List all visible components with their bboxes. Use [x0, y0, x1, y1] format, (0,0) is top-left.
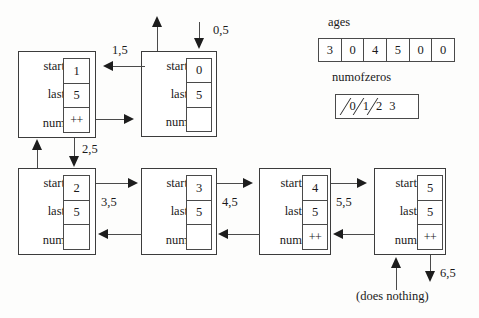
link-0-to-1-head: [103, 61, 113, 71]
frame-start-0: start last num 0 5: [141, 51, 217, 137]
value-num: [187, 225, 211, 249]
value-num: [64, 225, 89, 249]
ages-array: 3 0 4 5 0 0: [318, 38, 455, 62]
ages-cell-1: 0: [342, 39, 365, 61]
field-label-num: num: [19, 117, 68, 130]
value-last: 5: [64, 84, 89, 109]
link-4-to-3-head: [218, 229, 228, 239]
link-0-to-1-shaft: [113, 66, 145, 67]
field-label-last: last: [142, 205, 191, 218]
value-start: 0: [187, 59, 211, 83]
field-label-num: num: [19, 234, 68, 247]
frame-value-column: 5 5 ++: [417, 175, 443, 250]
value-last: 5: [187, 83, 211, 107]
field-label-num: num: [142, 234, 191, 247]
frame-value-column: 4 5 ++: [302, 175, 328, 250]
link-1-to-0-shaft: [96, 119, 126, 120]
value-last: 5: [303, 201, 327, 226]
link-2-to-3-head: [128, 178, 138, 188]
call-6-head: [425, 271, 435, 282]
value-last: 5: [187, 201, 211, 226]
ages-cell-3: 5: [387, 39, 410, 61]
field-label-last: last: [19, 88, 68, 101]
field-label-num: num: [260, 234, 305, 247]
call-label-5-5: 5,5: [336, 196, 352, 209]
ages-cell-0: 3: [319, 39, 342, 61]
does-nothing-return-shaft: [396, 268, 397, 290]
value-num: ++: [303, 225, 327, 249]
numofzeros-value-2: 2: [373, 100, 386, 113]
call-label-1-5: 1,5: [112, 44, 128, 57]
diagram-canvas: start last num 1 5 ++ start last num: [0, 0, 479, 318]
call-label-entry: 0,5: [213, 24, 229, 37]
ages-cell-2: 4: [364, 39, 387, 61]
call-label-6-5: 6,5: [440, 267, 456, 280]
field-label-last: last: [260, 205, 305, 218]
frame-start-4: start last num 4 5 ++: [259, 168, 331, 255]
numofzeros-label: numofzeros: [332, 71, 391, 84]
field-label-start: start: [375, 177, 420, 190]
frame-start-5: start last num 5 5 ++: [374, 168, 446, 255]
field-label-num: num: [375, 234, 420, 247]
field-label-start: start: [142, 177, 191, 190]
field-label-last: last: [19, 205, 68, 218]
link-3-to-4-shaft: [217, 183, 245, 184]
link-2-to-1-shaft: [37, 150, 38, 168]
does-nothing-return-head: [391, 257, 401, 268]
link-3-to-2-head: [98, 229, 108, 239]
frame-value-column: 0 5: [186, 58, 212, 132]
frame-start-3: start last num 3 5: [141, 168, 217, 255]
value-start: 1: [64, 59, 89, 84]
value-num: [187, 108, 211, 131]
frame-start-2: start last num 2 5: [18, 168, 96, 255]
frame-start-1: start last num 1 5 ++: [18, 51, 96, 138]
ages-cell-4: 0: [410, 39, 433, 61]
does-nothing-caption: (does nothing): [356, 290, 429, 303]
value-num: ++: [418, 225, 442, 249]
value-start: 2: [64, 176, 89, 201]
link-2-to-1-head: [32, 139, 42, 150]
link-3-to-2-shaft: [108, 234, 142, 235]
call-label-2-5: 2,5: [82, 143, 98, 156]
frame-value-column: 1 5 ++: [63, 58, 90, 133]
value-last: 5: [418, 201, 442, 226]
ages-array-label: ages: [328, 16, 350, 29]
field-label-last: last: [142, 88, 191, 101]
field-label-start: start: [19, 177, 68, 190]
value-num: ++: [64, 108, 89, 132]
link-5-to-4-head: [333, 229, 343, 239]
exit-arrow-head: [152, 16, 162, 27]
field-label-last: last: [375, 205, 420, 218]
ages-cell-5: 0: [432, 39, 454, 61]
value-start: 5: [418, 176, 442, 201]
entry-arrow-head: [194, 38, 204, 49]
numofzeros-value-3: 3: [386, 100, 399, 113]
value-last: 5: [64, 201, 89, 226]
exit-arrow-shaft: [157, 27, 158, 51]
field-label-num: num: [142, 116, 191, 129]
value-start: 4: [303, 176, 327, 201]
field-label-start: start: [142, 60, 191, 73]
link-3-to-4-head: [243, 178, 253, 188]
value-start: 3: [187, 176, 211, 201]
link-4-to-5-shaft: [331, 183, 359, 184]
link-4-to-3-shaft: [228, 234, 260, 235]
link-5-to-4-shaft: [343, 234, 375, 235]
frame-value-column: 2 5: [63, 175, 90, 250]
call-label-3-5: 3,5: [101, 196, 117, 209]
frame-value-column: 3 5: [186, 175, 212, 250]
link-2-to-3-shaft: [96, 183, 130, 184]
call-label-4-5: 4,5: [222, 196, 238, 209]
link-1-to-0-head: [124, 114, 134, 124]
numofzeros-box: 0 1 2 3: [335, 94, 419, 119]
field-label-start: start: [260, 177, 305, 190]
field-label-start: start: [19, 60, 68, 73]
link-4-to-5-head: [357, 178, 367, 188]
link-1-to-2-head: [69, 156, 79, 167]
